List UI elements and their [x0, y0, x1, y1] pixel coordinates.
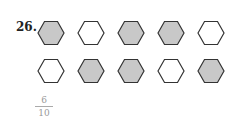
fraction-denominator: 10	[35, 108, 53, 118]
hexagon-shaded-icon	[157, 20, 185, 46]
fraction-numerator: 6	[35, 95, 53, 105]
hexagon-shaded-icon	[117, 20, 145, 46]
fraction-bar	[35, 106, 53, 107]
hexagon-shaded-icon	[197, 58, 225, 84]
hexagon-shaded-icon	[37, 20, 65, 46]
hexagon-shaded-icon	[117, 58, 145, 84]
hexagon-shaded-icon	[77, 58, 105, 84]
hexagon-unshaded-icon	[157, 58, 185, 84]
hexagon-unshaded-icon	[77, 20, 105, 46]
problem-number: 26.	[16, 20, 37, 34]
answer-fraction: 6 10	[35, 95, 53, 118]
hexagon-unshaded-icon	[37, 58, 65, 84]
hexagon-unshaded-icon	[197, 20, 225, 46]
